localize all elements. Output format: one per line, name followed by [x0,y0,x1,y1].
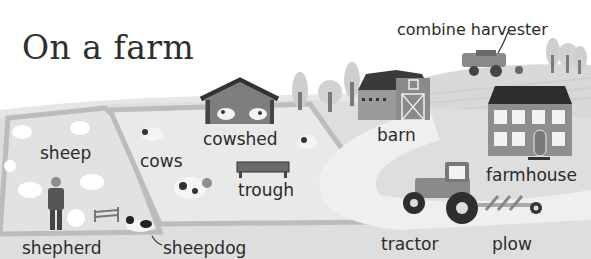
label-plow: plow [492,236,532,253]
label-sheep: sheep [40,145,91,162]
label-barn: barn [377,127,416,144]
page-title: On a farm [22,28,194,67]
label-shepherd: shepherd [22,240,102,257]
label-tractor: tractor [381,236,438,253]
label-combine-harvester: combine harvester [397,22,548,38]
farm-scene: On a farm combine harvester sheep cows c… [0,0,591,259]
label-cowshed: cowshed [203,131,278,148]
label-farmhouse: farmhouse [486,167,577,184]
label-cows: cows [140,153,183,170]
label-sheepdog: sheepdog [163,240,246,257]
barn-illustration [358,70,430,120]
label-trough: trough [238,182,294,199]
farmhouse-illustration [488,86,572,160]
tree-group-right [546,38,587,74]
cowshed-illustration [201,80,278,124]
